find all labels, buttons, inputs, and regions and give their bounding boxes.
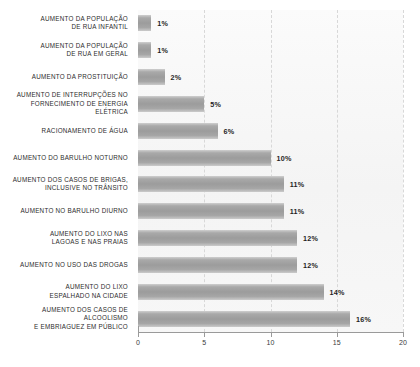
- bar-row: 14%: [138, 284, 403, 300]
- category-label-column: AUMENTO DA POPULAÇÃO DE RUA INFANTILAUME…: [0, 0, 134, 332]
- category-label: AUMENTO DE INTERRUPÇÕES NO FORNECIMENTO …: [0, 91, 128, 116]
- horizontal-bar-chart: AUMENTO DA POPULAÇÃO DE RUA INFANTILAUME…: [0, 0, 420, 367]
- category-label: AUMENTO NO USO DAS DROGAS: [0, 261, 128, 269]
- category-label: AUMENTO DO BARULHO NOTURNO: [0, 154, 128, 162]
- bar: [138, 123, 218, 139]
- bar: [138, 176, 284, 192]
- bar-row: 1%: [138, 15, 403, 31]
- bar: [138, 203, 284, 219]
- x-tick-label-15: 15: [333, 339, 341, 346]
- x-tick-0: [138, 332, 139, 337]
- bar-value-label: 11%: [290, 207, 305, 216]
- bar-row: 12%: [138, 257, 403, 273]
- bar-value-label: 12%: [303, 234, 318, 243]
- bar-value-label: 10%: [277, 153, 292, 162]
- x-tick-5: [204, 332, 205, 337]
- bar: [138, 42, 151, 58]
- category-label: AUMENTO DA POPULAÇÃO DE RUA EM GERAL: [0, 42, 128, 59]
- category-label: RACIONAMENTO DE ÁGUA: [0, 127, 128, 135]
- bar-row: 1%: [138, 42, 403, 58]
- bar-value-label: 16%: [356, 314, 371, 323]
- bar-value-label: 12%: [303, 260, 318, 269]
- category-label: AUMENTO DO LIXO NAS LAGOAS E NAS PRAIAS: [0, 230, 128, 247]
- gridline-20: [403, 10, 404, 332]
- bar-row: 5%: [138, 96, 403, 112]
- bar: [138, 311, 350, 327]
- bar: [138, 150, 271, 166]
- category-label: AUMENTO DA POPULAÇÃO DE RUA INFANTIL: [0, 15, 128, 32]
- bar-value-label: 2%: [171, 73, 182, 82]
- bar-row: 6%: [138, 123, 403, 139]
- x-tick-label-5: 5: [202, 339, 206, 346]
- x-tick-15: [337, 332, 338, 337]
- x-tick-10: [271, 332, 272, 337]
- bar: [138, 15, 151, 31]
- plot-area: 1%1%2%5%6%10%11%11%12%12%14%16%: [138, 10, 403, 332]
- bar: [138, 69, 165, 85]
- bar-row: 2%: [138, 69, 403, 85]
- bar-row: 11%: [138, 176, 403, 192]
- bar-value-label: 1%: [157, 46, 168, 55]
- bar: [138, 96, 204, 112]
- bar-row: 16%: [138, 311, 403, 327]
- bar: [138, 284, 324, 300]
- bar: [138, 257, 297, 273]
- bar-value-label: 5%: [210, 99, 221, 108]
- category-label: AUMENTO DOS CASOS DE BRIGAS, INCLUSIVE N…: [0, 176, 128, 193]
- category-label: AUMENTO NO BARULHO DIURNO: [0, 207, 128, 215]
- x-tick-20: [403, 332, 404, 337]
- bar-value-label: 6%: [224, 126, 235, 135]
- category-label: AUMENTO DA PROSTITUIÇÃO: [0, 73, 128, 81]
- bar: [138, 230, 297, 246]
- x-tick-label-0: 0: [136, 339, 140, 346]
- bar-row: 11%: [138, 203, 403, 219]
- x-tick-label-10: 10: [266, 339, 274, 346]
- bar-row: 12%: [138, 230, 403, 246]
- category-label: AUMENTO DO LIXO ESPALHADO NA CIDADE: [0, 283, 128, 300]
- bar-value-label: 11%: [290, 180, 305, 189]
- x-tick-label-20: 20: [399, 339, 407, 346]
- bar-row: 10%: [138, 150, 403, 166]
- bar-value-label: 14%: [330, 287, 345, 296]
- category-label: AUMENTO DOS CASOS DE ALCOOLISMO E EMBRIA…: [0, 306, 128, 331]
- bar-value-label: 1%: [157, 19, 168, 28]
